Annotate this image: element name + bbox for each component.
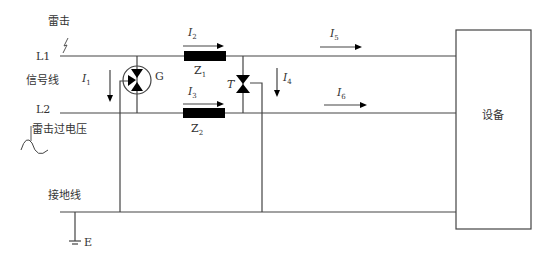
device-box xyxy=(456,30,531,229)
L1-label: L1 xyxy=(36,51,50,62)
ground-line-label: 接地线 xyxy=(48,190,81,201)
T-label: T xyxy=(227,79,234,90)
signal-line-label: 信号线 xyxy=(26,75,59,86)
G-label: G xyxy=(155,71,164,82)
L2-label: L2 xyxy=(36,104,50,115)
earth-label: E xyxy=(84,237,92,248)
lightning-label: 雷击 xyxy=(48,16,70,27)
Z1-label: Z1 xyxy=(194,65,206,79)
I2-label: I2 xyxy=(188,27,197,41)
I4-label: I4 xyxy=(283,72,292,86)
surge-protection-circuit-diagram: 雷击 L1 信号线 L2 雷击过电压 接地线 E G T 设备 I1 I2 I3… xyxy=(0,0,548,259)
I3-label: I3 xyxy=(188,86,197,100)
I1-label: I1 xyxy=(82,73,91,87)
impedance-Z1 xyxy=(184,51,226,61)
I6-label: I6 xyxy=(337,87,346,101)
I5-label: I5 xyxy=(330,28,339,42)
lightning-overvoltage-label: 雷击过电压 xyxy=(32,124,87,135)
impedance-Z2 xyxy=(183,108,225,118)
Z2-label: Z2 xyxy=(191,123,203,137)
device-label: 设备 xyxy=(482,110,504,121)
